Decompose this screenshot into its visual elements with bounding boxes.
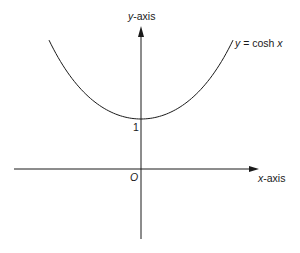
origin-label: O xyxy=(130,172,138,183)
y-axis-arrow-icon xyxy=(138,26,144,37)
curve-label-x: x xyxy=(277,37,282,49)
intercept-label: 1 xyxy=(133,122,139,133)
x-axis-label-rest: -axis xyxy=(263,172,285,184)
y-axis-label: y-axis xyxy=(128,11,155,22)
y-axis-label-rest: -axis xyxy=(133,10,155,22)
x-axis-label: x-axis xyxy=(258,173,285,184)
curve-label-eq: = cosh xyxy=(240,37,277,49)
curve-label: y = cosh x xyxy=(235,38,283,49)
